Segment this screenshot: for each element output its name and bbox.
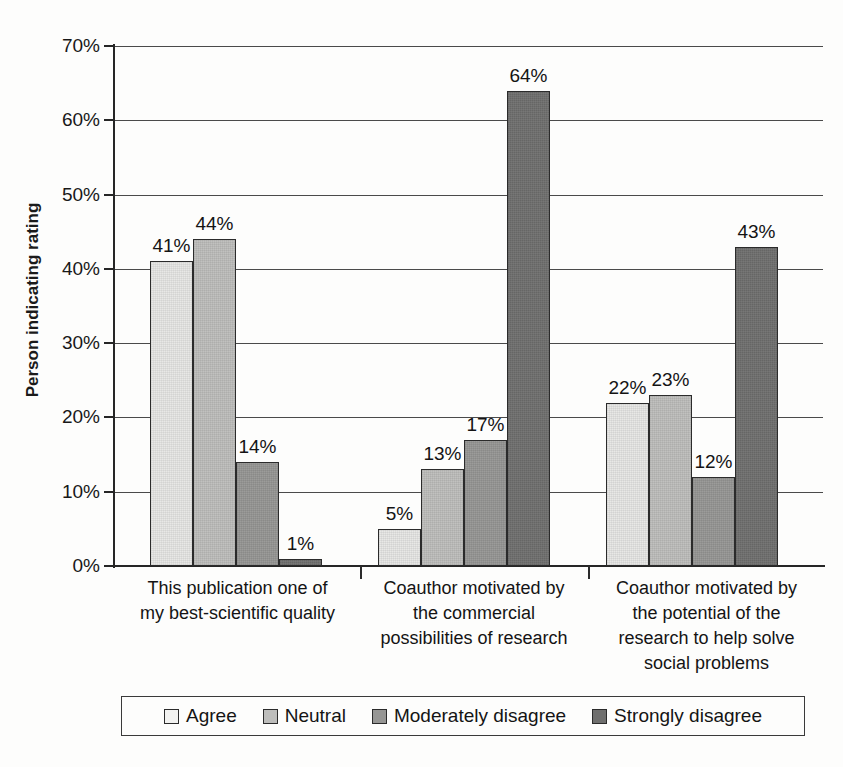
y-axis-tick-mark — [104, 119, 113, 121]
bar — [606, 403, 649, 566]
x-axis-category-label-line: my best-scientific quality — [115, 601, 360, 626]
bar — [378, 529, 421, 566]
bar-value-label: 44% — [183, 214, 246, 234]
legend-label: Moderately disagree — [394, 706, 566, 726]
y-axis-tick-mark — [104, 416, 113, 418]
legend-swatch-strongly-disagree — [592, 709, 607, 724]
x-axis-category-label-line: This publication one of — [115, 576, 360, 601]
x-axis-category-label-line: the potential of the — [588, 601, 825, 626]
x-axis-category-label: Coauthor motivated bythe potential of th… — [588, 576, 825, 676]
y-axis-tick-label: 20% — [42, 407, 100, 426]
bar — [507, 91, 550, 566]
legend-label: Strongly disagree — [614, 706, 762, 726]
x-axis-category-label-line: the commercial — [360, 601, 588, 626]
legend-swatch-agree — [164, 709, 179, 724]
bar — [421, 469, 464, 566]
bar-value-label: 14% — [226, 437, 289, 457]
plot-area: 41%44%14%1%5%13%17%64%22%23%12%43% — [113, 46, 823, 566]
x-axis-category-label-line: Coauthor motivated by — [588, 576, 825, 601]
legend-item[interactable]: Agree — [164, 706, 237, 726]
bar — [279, 559, 322, 566]
bar-value-label: 1% — [269, 534, 332, 554]
legend-label: Agree — [186, 706, 237, 726]
chart-legend: Agree Neutral Moderately disagree Strong… — [121, 696, 805, 736]
y-axis-tick-label: 40% — [42, 259, 100, 278]
legend-swatch-moderately-disagree — [372, 709, 387, 724]
bar-value-label: 23% — [639, 370, 702, 390]
bar — [150, 261, 193, 566]
y-axis-tick-mark — [104, 342, 113, 344]
bar — [193, 239, 236, 566]
legend-item[interactable]: Strongly disagree — [592, 706, 762, 726]
y-axis-tick-mark — [104, 565, 113, 567]
legend-label: Neutral — [285, 706, 346, 726]
y-axis-tick-label: 50% — [42, 185, 100, 204]
y-axis-tick-mark — [104, 491, 113, 493]
legend-swatch-neutral — [263, 709, 278, 724]
x-axis-category-label-line: Coauthor motivated by — [360, 576, 588, 601]
legend-item[interactable]: Neutral — [263, 706, 346, 726]
bar — [649, 395, 692, 566]
bar — [464, 440, 507, 566]
bar-value-label: 43% — [725, 222, 788, 242]
legend-item[interactable]: Moderately disagree — [372, 706, 566, 726]
y-axis-tick-label: 70% — [42, 36, 100, 55]
y-axis-tick-label: 10% — [42, 482, 100, 501]
x-axis-category-label-line: research to help solve — [588, 626, 825, 651]
x-axis-category-label: This publication one ofmy best-scientifi… — [115, 576, 360, 626]
y-axis-tick-mark — [104, 45, 113, 47]
y-axis-tick-mark — [104, 268, 113, 270]
bar-chart-figure: Person indicating rating 0%10%20%30%40%5… — [0, 0, 843, 767]
x-axis-category-label-line: possibilities of research — [360, 626, 588, 651]
bar — [735, 247, 778, 566]
y-axis-tick-label: 30% — [42, 333, 100, 352]
y-axis-tick-mark — [104, 194, 113, 196]
y-axis-tick-label: 0% — [42, 556, 100, 575]
x-axis-category-label-line: social problems — [588, 651, 825, 676]
bar-value-label: 64% — [497, 66, 560, 86]
y-axis-tick-label: 60% — [42, 110, 100, 129]
x-axis-category-label: Coauthor motivated bythe commercialpossi… — [360, 576, 588, 651]
bar — [692, 477, 735, 566]
